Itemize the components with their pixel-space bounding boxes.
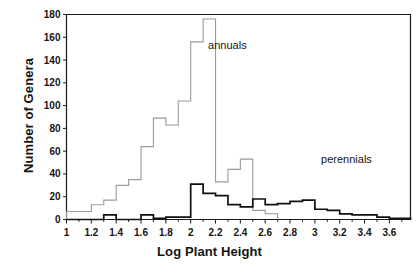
x-tick-label: 3.4 — [358, 227, 372, 238]
y-tick-label: 80 — [49, 123, 61, 134]
x-tick-label: 2.6 — [258, 227, 272, 238]
x-tick-label: 3 — [312, 227, 318, 238]
y-tick-label: 180 — [44, 9, 61, 20]
x-tick-label: 1.6 — [134, 227, 148, 238]
x-tick-label: 1.8 — [159, 227, 173, 238]
x-tick-label: 2.8 — [283, 227, 297, 238]
y-axis-ticks: 020406080100120140160180 — [44, 9, 67, 225]
figure-container: 020406080100120140160180 11.21.41.61.822… — [0, 0, 419, 274]
y-tick-label: 100 — [44, 100, 61, 111]
y-tick-label: 60 — [49, 146, 61, 157]
y-axis-title: Number of Genera — [21, 26, 36, 206]
series-label-annuals: annuals — [208, 39, 247, 51]
y-tick-label: 120 — [44, 77, 61, 88]
y-tick-label: 160 — [44, 32, 61, 43]
x-tick-label: 3.6 — [382, 227, 396, 238]
x-tick-label: 1.2 — [84, 227, 98, 238]
x-tick-label: 1 — [64, 227, 70, 238]
x-tick-label: 1.4 — [109, 227, 123, 238]
series-line-perennials — [67, 184, 411, 219]
x-tick-label: 2.4 — [233, 227, 247, 238]
y-tick-label: 20 — [49, 191, 61, 202]
series-label-perennials: perennials — [321, 153, 372, 165]
x-axis-title: Log Plant Height — [0, 244, 419, 259]
y-tick-label: 0 — [55, 214, 61, 225]
x-tick-label: 3.2 — [333, 227, 347, 238]
y-tick-label: 140 — [44, 55, 61, 66]
y-tick-label: 40 — [49, 168, 61, 179]
x-axis-ticks: 11.21.41.61.822.22.42.62.833.23.43.6 — [64, 220, 402, 238]
x-tick-label: 2 — [188, 227, 194, 238]
x-tick-label: 2.2 — [209, 227, 223, 238]
